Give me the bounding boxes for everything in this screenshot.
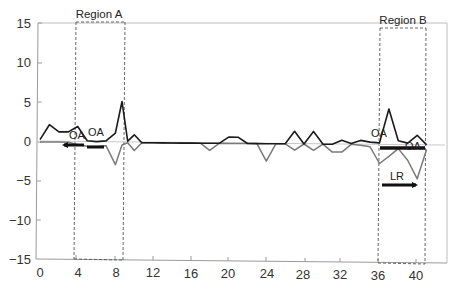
annotation-arrows [64,145,425,185]
y-tick-label: −15 [9,252,31,267]
y-tick-label: 0 [24,134,31,149]
oa-label: OA [88,126,105,138]
y-axis [36,23,38,259]
x-tick-label: 28 [296,267,310,282]
x-tick-label: 24 [260,266,274,281]
oa-label: OA [405,140,422,152]
x-axis [36,259,447,263]
y-tick-label: 15 [17,16,31,31]
x-axis-labels: 0 4 8 12 16 20 24 28 32 36 40 [36,265,423,283]
x-tick-label: 0 [36,265,43,280]
x-tick-label: 16 [184,266,198,281]
x-tick-label: 12 [146,265,160,280]
y-tick-label: 5 [24,95,31,110]
region-b-label: Region B [379,14,427,26]
oa-label: OA [69,129,86,141]
positive-series-line [40,102,427,145]
x-tick-label: 36 [371,268,385,283]
x-tick-label: 8 [112,265,119,280]
x-tick-label: 32 [333,267,347,282]
region-a-label: Region A [76,8,123,20]
y-axis-labels: 15 10 5 0 −5 −10 −15 [9,16,31,267]
oa-label: OA [371,127,388,139]
x-tick-label: 4 [74,265,81,280]
y-tick-label: −10 [9,213,31,228]
x-tick-label: 40 [409,268,423,283]
lr-label: LR [390,170,404,182]
line-chart: 15 10 5 0 −5 −10 −15 0 4 8 12 16 20 24 2… [0,0,461,290]
x-tick-label: 20 [221,266,235,281]
y-tick-label: −5 [16,173,31,188]
y-tick-label: 10 [17,55,31,70]
